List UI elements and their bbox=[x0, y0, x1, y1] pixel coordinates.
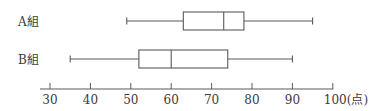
x-tick-label: 50 bbox=[123, 93, 138, 107]
iqr-box bbox=[183, 12, 244, 30]
box-plot-groups: A組B組 bbox=[17, 12, 313, 68]
iqr-box bbox=[139, 50, 228, 68]
x-tick-label: 90 bbox=[285, 93, 300, 107]
x-tick-label: 80 bbox=[244, 93, 259, 107]
group-label: B組 bbox=[18, 53, 39, 67]
group-label: A組 bbox=[17, 15, 39, 29]
x-tick-label: 70 bbox=[204, 93, 219, 107]
x-tick-label: 30 bbox=[42, 93, 57, 107]
box-plot-group-a: A組 bbox=[17, 12, 313, 30]
x-axis: 30405060708090100(点) bbox=[40, 83, 368, 107]
x-tick-label: 40 bbox=[83, 93, 98, 107]
x-tick-label: 60 bbox=[164, 93, 179, 107]
box-plot-chart: A組B組 30405060708090100(点) bbox=[0, 0, 369, 111]
x-tick-label: 100(点) bbox=[324, 93, 368, 107]
box-plot-group-b: B組 bbox=[18, 50, 292, 68]
